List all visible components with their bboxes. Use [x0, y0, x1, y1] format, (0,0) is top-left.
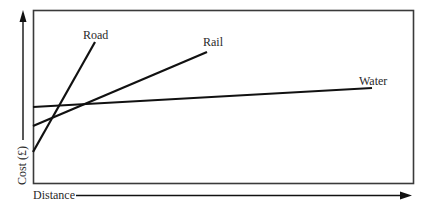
road-label: Road — [83, 28, 108, 42]
cost-distance-diagram: Cost (£) Distance Road Rail Water — [0, 0, 429, 211]
x-axis-label: Distance — [33, 188, 75, 202]
road-line — [33, 42, 95, 152]
y-axis-arrow — [20, 10, 27, 140]
rail-line — [33, 52, 207, 126]
x-axis-arrow — [76, 192, 412, 200]
water-label: Water — [359, 74, 387, 88]
water-line — [33, 88, 372, 107]
y-axis-label: Cost (£) — [15, 146, 29, 185]
rail-label: Rail — [203, 35, 224, 49]
